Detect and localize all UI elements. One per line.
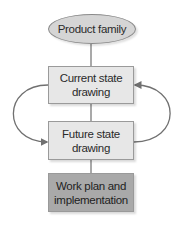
- node-current-state-drawing: Current state drawing: [48, 66, 134, 104]
- node-label-line1: Future state: [62, 127, 120, 141]
- node-future-state-drawing: Future state drawing: [48, 121, 134, 160]
- node-work-plan-implementation: Work plan and implementation: [48, 173, 134, 212]
- node-label-line2: drawing: [60, 85, 123, 99]
- node-product-family: Product family: [48, 14, 136, 44]
- node-label-line2: drawing: [62, 141, 120, 155]
- node-label-line2: implementation: [54, 193, 128, 207]
- node-label-line1: Work plan and: [54, 179, 128, 193]
- loop-arrow-left: [13, 85, 48, 142]
- node-label-line1: Current state: [60, 71, 123, 85]
- loop-arrow-right: [134, 85, 170, 142]
- node-label: Product family: [58, 22, 127, 36]
